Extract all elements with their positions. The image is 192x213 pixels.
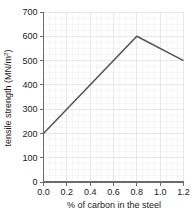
x-axis-title: % of carbon in the steel: [67, 200, 161, 210]
x-tick-label: 0.2: [61, 187, 74, 197]
x-tick-label: 0.8: [131, 187, 144, 197]
x-tick-label: 1.2: [177, 187, 190, 197]
y-tick-label: 500: [22, 56, 37, 66]
y-tick-label: 400: [22, 80, 37, 90]
chart-container: 0.00.20.40.60.81.01.2 010020030040050060…: [0, 0, 192, 213]
y-axis-title-text: tensile strength (MN/m2): [2, 50, 13, 147]
y-tick-label: 200: [22, 129, 37, 139]
y-tick-label: 100: [22, 153, 37, 163]
x-tick-label: 0.6: [107, 187, 120, 197]
x-tick-label: 1.0: [154, 187, 167, 197]
y-tick-label: 300: [22, 104, 37, 114]
line-chart-figure: 0.00.20.40.60.81.01.2 010020030040050060…: [0, 0, 192, 213]
y-tick-label: 0: [32, 177, 37, 187]
x-tick-label: 0.0: [37, 187, 50, 197]
x-tick-label: 0.4: [84, 187, 97, 197]
y-axis-title: tensile strength (MN/m2): [2, 50, 13, 147]
y-tick-label: 600: [22, 31, 37, 41]
y-tick-label: 700: [22, 7, 37, 17]
